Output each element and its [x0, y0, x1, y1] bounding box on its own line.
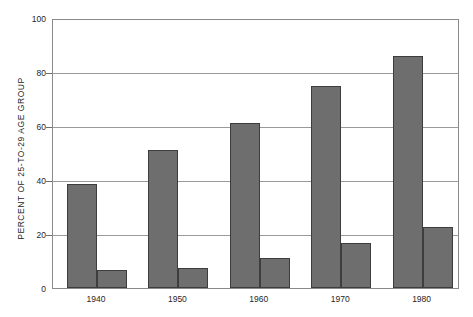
bar — [393, 56, 423, 288]
x-tick-label: 1970 — [331, 294, 350, 304]
y-tick-label: 0 — [12, 284, 46, 294]
x-tick-label: 1960 — [249, 294, 268, 304]
bar — [423, 227, 453, 288]
x-tick-label: 1950 — [168, 294, 187, 304]
bar — [148, 150, 178, 288]
y-tick-label: 100 — [12, 14, 46, 24]
y-tick-label: 20 — [12, 230, 46, 240]
bar — [178, 268, 208, 288]
y-tick-label: 80 — [12, 68, 46, 78]
bar — [230, 123, 260, 288]
bar — [260, 258, 290, 288]
chart-figure: PERCENT OF 25-TO-29 AGE GROUP 0204060801… — [0, 0, 473, 317]
plot-area — [52, 19, 459, 289]
bar — [311, 86, 341, 289]
x-tick-label: 1980 — [412, 294, 431, 304]
y-tick-label: 60 — [12, 122, 46, 132]
y-tick-label: 40 — [12, 176, 46, 186]
y-axis-title-wrapper: PERCENT OF 25-TO-29 AGE GROUP — [12, 0, 32, 317]
bar — [67, 184, 97, 288]
gridline — [53, 19, 458, 20]
bar — [341, 243, 371, 288]
bar — [97, 270, 127, 288]
x-tick-label: 1940 — [87, 294, 106, 304]
y-axis-title: PERCENT OF 25-TO-29 AGE GROUP — [12, 0, 30, 317]
